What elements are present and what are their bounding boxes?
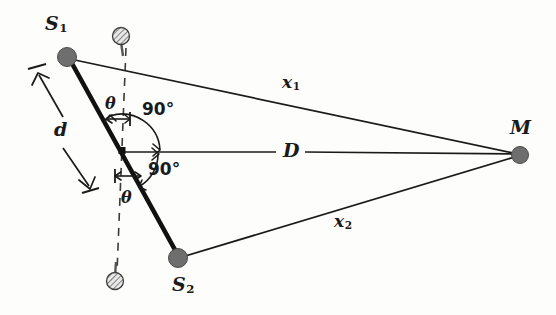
right-angle-top-label: 90° — [142, 101, 174, 118]
axis-D-right-segment — [305, 152, 517, 154]
right-angle-bottom-label: 90° — [148, 161, 180, 178]
ray-x2-line — [182, 156, 518, 257]
source-2-dot — [169, 249, 188, 268]
source-1-dot — [58, 48, 77, 67]
distance-D-label: D — [283, 141, 299, 160]
center-vertex-marker — [119, 147, 126, 154]
separation-d-label: d — [54, 120, 67, 139]
hatched-ball-top-icon — [113, 28, 130, 45]
diagram-canvas — [0, 0, 556, 315]
interference-geometry-figure: S1 S2 M D x1 x2 d θ θ 90° 90° — [0, 0, 556, 315]
angle-theta-top-label: θ — [105, 96, 116, 112]
d-dimension-upper-cap — [28, 64, 46, 69]
d-dimension-upper-arrow-shaft — [39, 75, 63, 117]
detector-label: M — [510, 118, 531, 137]
source-2-label: S2 — [172, 275, 194, 296]
d-dimension-lower-arrow-shaft — [63, 148, 89, 186]
path-x2-label: x2 — [334, 213, 352, 230]
hatched-ball-bottom-icon — [107, 273, 124, 290]
baseline-s1-s2 — [69, 58, 179, 257]
path-x1-label: x1 — [282, 74, 300, 91]
angle-theta-bottom-label: θ — [121, 190, 132, 206]
detector-dot — [512, 147, 529, 164]
source-1-label: S1 — [45, 14, 67, 35]
